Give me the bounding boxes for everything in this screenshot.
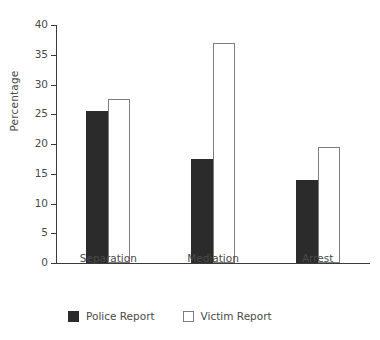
y-axis-tick-mark	[51, 114, 56, 115]
legend-swatch-dark	[68, 311, 79, 322]
y-axis-tick-label: 0	[18, 256, 48, 269]
y-axis-tick-label: 20	[18, 137, 48, 150]
y-axis-tick-mark	[51, 263, 56, 264]
y-axis-tick-mark	[51, 233, 56, 234]
y-axis-tick-mark	[51, 144, 56, 145]
y-axis-tick-label: 25	[18, 107, 48, 120]
y-axis-tick-mark	[51, 55, 56, 56]
bar	[213, 43, 235, 263]
y-axis-tick-label: 10	[18, 197, 48, 210]
y-axis-tick-label: 35	[18, 48, 48, 61]
plot-area: 0510152025303540	[56, 25, 370, 263]
y-axis-line	[56, 25, 57, 263]
y-axis-tick-mark	[51, 174, 56, 175]
bar	[318, 147, 340, 263]
legend-entry: Police Report	[68, 310, 155, 322]
bar	[191, 159, 213, 263]
y-axis-tick-label: 15	[18, 167, 48, 180]
y-axis-tick-mark	[51, 25, 56, 26]
bar	[108, 99, 130, 263]
legend-entry: Victim Report	[183, 310, 272, 322]
legend-label: Police Report	[86, 310, 155, 322]
x-axis-category-label: Arrest	[302, 252, 333, 264]
x-axis-category-label: Mediation	[187, 252, 239, 264]
y-axis-tick-mark	[51, 204, 56, 205]
x-axis-category-label: Separation	[80, 252, 137, 264]
legend-label: Victim Report	[201, 310, 272, 322]
y-axis-tick-label: 40	[18, 18, 48, 31]
legend-swatch-light	[183, 311, 194, 322]
y-axis-tick-mark	[51, 85, 56, 86]
y-axis-tick-label: 30	[18, 78, 48, 91]
bar	[296, 180, 318, 263]
chart-legend: Police ReportVictim Report	[68, 310, 272, 322]
bar	[86, 111, 108, 263]
y-axis-tick-label: 5	[18, 226, 48, 239]
bar-chart-figure: Percentage 0510152025303540 SeparationMe…	[0, 0, 380, 340]
